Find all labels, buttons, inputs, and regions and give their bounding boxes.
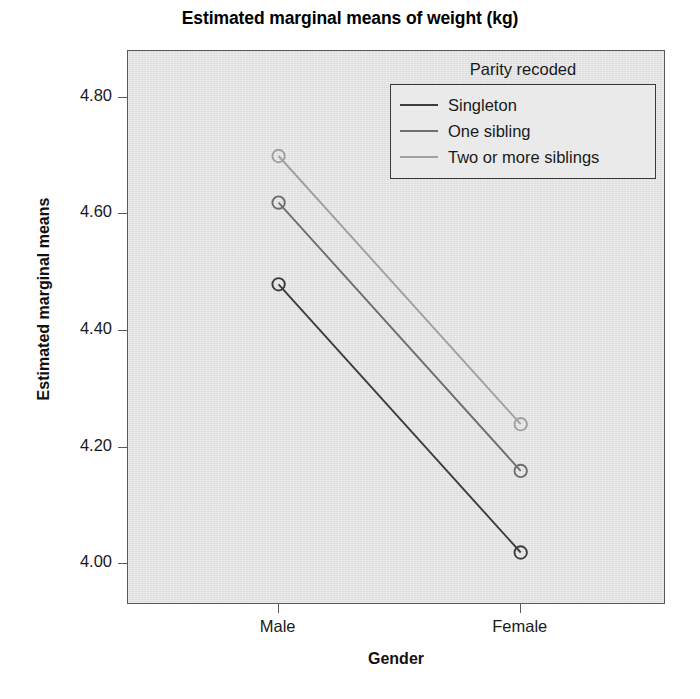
legend-box: Singleton One sibling Two or more siblin… xyxy=(390,84,656,179)
series-one-sibling xyxy=(272,196,527,477)
series-line xyxy=(279,156,521,424)
legend-label-one-sibling: One sibling xyxy=(448,123,531,140)
legend-item-one-sibling[interactable]: One sibling xyxy=(400,118,646,144)
legend-item-singleton[interactable]: Singleton xyxy=(400,92,646,118)
data-point-marker xyxy=(272,278,284,290)
legend-label-two-or-more-siblings: Two or more siblings xyxy=(448,149,599,166)
x-tick-mark xyxy=(520,604,521,613)
legend: Parity recoded Singleton One sibling Two… xyxy=(390,60,656,179)
y-tick-label: 4.60 xyxy=(40,202,112,221)
x-axis-title: Gender xyxy=(127,650,665,668)
legend-swatch-two-or-more-siblings xyxy=(400,156,438,158)
x-tick-mark xyxy=(278,604,279,613)
y-tick-label: 4.20 xyxy=(40,436,112,455)
legend-item-two-or-more-siblings[interactable]: Two or more siblings xyxy=(400,144,646,170)
legend-label-singleton: Singleton xyxy=(448,97,517,114)
y-tick-mark xyxy=(118,97,127,98)
x-tick-label: Male xyxy=(208,617,348,636)
y-tick-mark xyxy=(118,330,127,331)
chart-title: Estimated marginal means of weight (kg) xyxy=(0,8,700,29)
y-tick-label: 4.40 xyxy=(40,319,112,338)
series-line xyxy=(279,203,521,471)
series-singleton xyxy=(272,278,527,559)
series-line xyxy=(279,284,521,552)
y-tick-mark xyxy=(118,213,127,214)
legend-swatch-singleton xyxy=(400,104,438,106)
legend-swatch-one-sibling xyxy=(400,130,438,132)
y-tick-mark xyxy=(118,447,127,448)
series-two-or-more-siblings xyxy=(272,150,527,431)
legend-title: Parity recoded xyxy=(390,60,656,79)
y-tick-mark xyxy=(118,563,127,564)
x-tick-label: Female xyxy=(450,617,590,636)
y-tick-label: 4.00 xyxy=(40,552,112,571)
y-tick-label: 4.80 xyxy=(40,86,112,105)
chart-canvas: Estimated marginal means of weight (kg) … xyxy=(0,0,700,699)
